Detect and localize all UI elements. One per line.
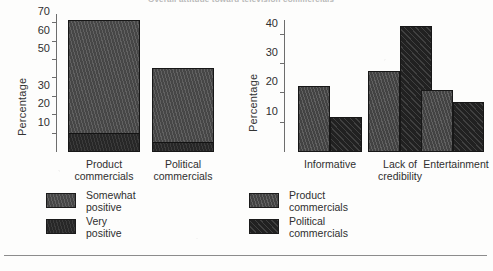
legend-line1: Political bbox=[289, 215, 325, 227]
right-category-label-informative: Informative bbox=[304, 159, 356, 171]
left-ytick-label-50: 50 bbox=[38, 42, 50, 54]
cat-line2: credibility bbox=[378, 170, 422, 182]
legend-line2: positive bbox=[86, 201, 122, 213]
left-ytick-40 bbox=[52, 77, 57, 78]
left-ytick-50 bbox=[52, 59, 57, 60]
cat-line1: Political bbox=[165, 158, 201, 170]
legend-label-product-commercials: Product commercials bbox=[289, 190, 348, 213]
cat-line2: commercials bbox=[75, 170, 134, 182]
right-y-axis-title: Percentage bbox=[247, 74, 259, 132]
legend-line1: Product bbox=[289, 189, 325, 201]
cat-line2: commercials bbox=[154, 170, 213, 182]
right-category-label-lack-of-credibility: Lack of credibility bbox=[378, 159, 422, 182]
left-ytick-label-10: 10 bbox=[38, 116, 50, 128]
left-ytick-60 bbox=[52, 41, 57, 42]
right-ytick-label-30: 30 bbox=[266, 46, 278, 58]
stack-divider bbox=[153, 142, 213, 143]
right-ytick-label-10: 10 bbox=[266, 105, 278, 117]
left-plot-area: 10 20 30 50 60 70 Product commercials Po… bbox=[56, 14, 216, 152]
left-ytick-10 bbox=[52, 133, 57, 134]
somewhat-positive-swatch bbox=[46, 193, 76, 208]
segment-somewhat-positive bbox=[153, 69, 213, 142]
left-category-label-political: Political commercials bbox=[154, 159, 213, 182]
right-y-axis bbox=[284, 20, 285, 152]
bar-entertainment-political bbox=[453, 102, 484, 152]
bar-lack-of-credibility-product bbox=[368, 71, 400, 152]
bottom-divider-rule bbox=[4, 255, 487, 256]
bar-informative-product bbox=[298, 86, 330, 152]
right-ytick-label-40: 40 bbox=[266, 17, 278, 29]
bar-political-commercials-stacked bbox=[152, 68, 214, 152]
right-category-label-entertainment: Entertainment bbox=[423, 159, 488, 171]
cat-line1: Product bbox=[86, 158, 122, 170]
legend-line1: Very bbox=[86, 215, 107, 227]
bar-product-commercials-stacked bbox=[68, 20, 140, 153]
left-y-axis bbox=[56, 14, 57, 152]
cat-line1: Entertainment bbox=[423, 158, 488, 170]
bar-informative-political bbox=[330, 117, 362, 152]
left-ytick-label-60: 60 bbox=[38, 24, 50, 36]
right-ytick-40 bbox=[280, 34, 285, 35]
legend-line2: commercials bbox=[289, 201, 348, 213]
left-chart-panel: Percentage 10 20 30 50 60 70 Product com… bbox=[0, 6, 225, 186]
stack-divider bbox=[69, 133, 139, 134]
legend-label-political-commercials: Political commercials bbox=[289, 216, 348, 239]
left-ytick-20 bbox=[52, 114, 57, 115]
left-ytick-30 bbox=[52, 96, 57, 97]
left-ytick-label-20: 20 bbox=[38, 97, 50, 109]
right-ytick-label-20: 20 bbox=[266, 75, 278, 87]
left-ytick-70 bbox=[52, 22, 57, 23]
right-ytick-20 bbox=[280, 92, 285, 93]
legend-line2: commercials bbox=[289, 227, 348, 239]
segment-very-positive bbox=[153, 143, 213, 151]
product-commercials-swatch bbox=[249, 193, 279, 208]
figure-title-text: Overall attitude toward television comme… bbox=[148, 0, 334, 4]
segment-very-positive bbox=[69, 134, 139, 151]
legend-label-somewhat-positive: Somewhat positive bbox=[86, 190, 136, 213]
cat-line1: Informative bbox=[304, 158, 356, 170]
left-category-label-product: Product commercials bbox=[75, 159, 134, 182]
right-ytick-10 bbox=[280, 122, 285, 123]
right-chart-panel: Percentage 10 20 30 40 Informative Lack … bbox=[225, 6, 493, 186]
political-commercials-swatch bbox=[249, 219, 279, 234]
legend-line1: Somewhat bbox=[86, 189, 136, 201]
left-ytick-label-30: 30 bbox=[38, 79, 50, 91]
legend-line2: positive bbox=[86, 227, 122, 239]
legend-label-very-positive: Very positive bbox=[86, 216, 122, 239]
left-ytick-label-70: 70 bbox=[38, 5, 50, 17]
cat-line1: Lack of bbox=[383, 158, 417, 170]
right-plot-area: 10 20 30 40 Informative Lack of credibil… bbox=[284, 20, 484, 152]
bar-entertainment-product bbox=[421, 90, 453, 152]
segment-somewhat-positive bbox=[69, 21, 139, 135]
very-positive-swatch bbox=[46, 219, 76, 234]
right-ytick-30 bbox=[280, 63, 285, 64]
left-y-axis-title: Percentage bbox=[16, 78, 28, 136]
